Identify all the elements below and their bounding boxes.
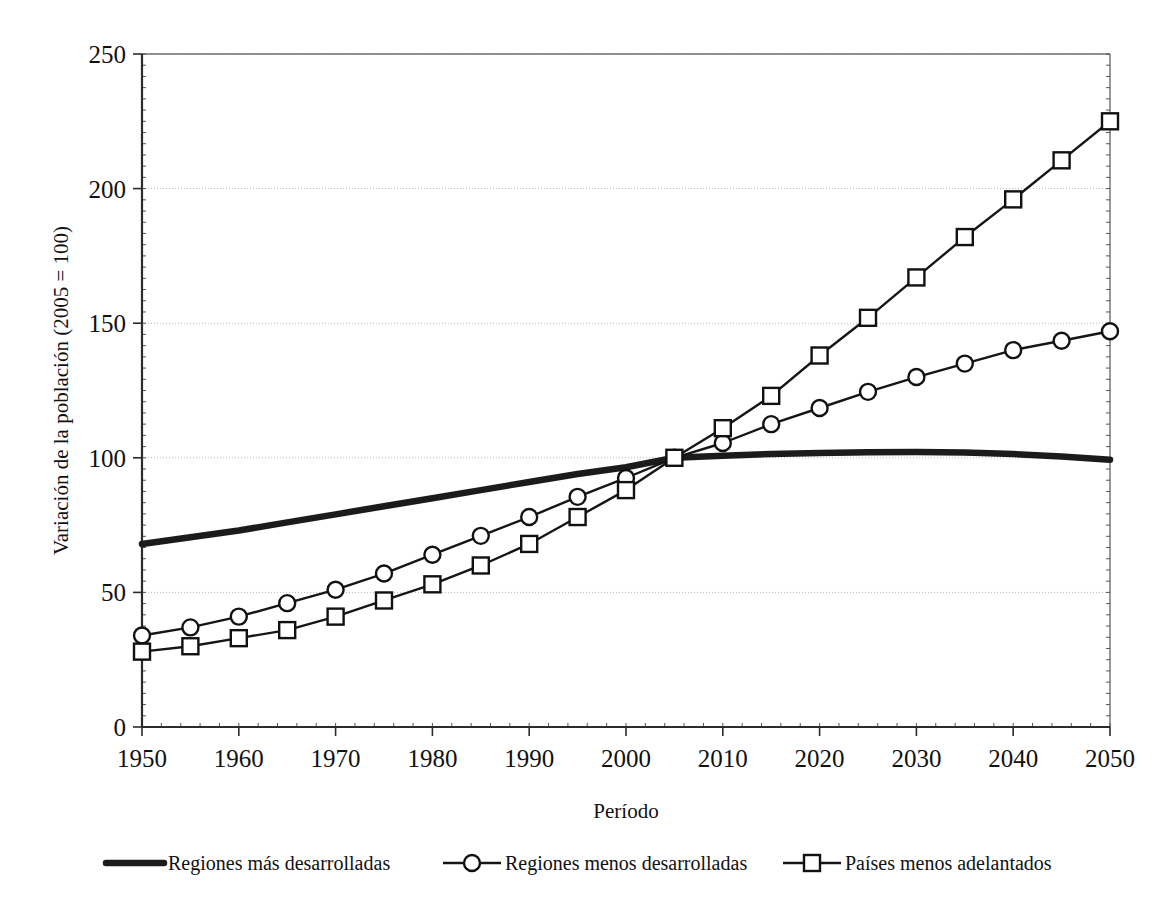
data-point-marker-square bbox=[908, 269, 924, 285]
data-point-marker-circle bbox=[957, 356, 973, 372]
data-point-marker-circle bbox=[279, 595, 295, 611]
data-point-marker-circle bbox=[715, 435, 731, 451]
x-tick-label-2020: 2020 bbox=[795, 745, 845, 772]
chart-canvas: 0501001502002501950196019701980199020002… bbox=[0, 0, 1170, 921]
legend-item-1[interactable]: Regiones menos desarrolladas bbox=[443, 852, 747, 875]
data-point-marker-square bbox=[666, 450, 682, 466]
x-tick-label-1980: 1980 bbox=[407, 745, 457, 772]
data-point-marker-square bbox=[715, 420, 731, 436]
legend-label-1: Regiones menos desarrolladas bbox=[505, 852, 747, 875]
data-point-marker-square bbox=[618, 482, 634, 498]
legend-marker-circle-icon bbox=[464, 855, 480, 871]
x-tick-label-1970: 1970 bbox=[311, 745, 361, 772]
legend-marker-square-icon bbox=[804, 855, 820, 871]
data-point-marker-square bbox=[328, 609, 344, 625]
series-line-2 bbox=[142, 121, 1110, 651]
data-point-marker-circle bbox=[182, 619, 198, 635]
data-point-marker-circle bbox=[231, 609, 247, 625]
data-point-marker-circle bbox=[328, 582, 344, 598]
data-point-marker-circle bbox=[1005, 342, 1021, 358]
legend-label-2: Países menos adelantados bbox=[845, 852, 1052, 874]
y-tick-label-150: 150 bbox=[89, 310, 127, 337]
data-point-marker-square bbox=[1054, 152, 1070, 168]
data-point-marker-square bbox=[134, 644, 150, 660]
y-tick-label-0: 0 bbox=[114, 714, 127, 741]
x-axis-title: Período bbox=[593, 799, 658, 823]
data-point-marker-circle bbox=[424, 547, 440, 563]
data-point-marker-square bbox=[957, 229, 973, 245]
data-point-marker-square bbox=[812, 348, 828, 364]
data-point-marker-circle bbox=[473, 528, 489, 544]
data-point-marker-circle bbox=[1102, 323, 1118, 339]
data-point-marker-circle bbox=[521, 509, 537, 525]
legend-item-2[interactable]: Países menos adelantados bbox=[783, 852, 1052, 874]
data-point-marker-circle bbox=[908, 369, 924, 385]
x-tick-label-1950: 1950 bbox=[117, 745, 167, 772]
data-point-marker-square bbox=[376, 592, 392, 608]
data-point-marker-square bbox=[182, 638, 198, 654]
population-variation-chart: 0501001502002501950196019701980199020002… bbox=[0, 0, 1170, 921]
y-tick-label-50: 50 bbox=[101, 579, 126, 606]
x-tick-label-1990: 1990 bbox=[504, 745, 554, 772]
data-point-marker-square bbox=[521, 536, 537, 552]
data-point-marker-circle bbox=[860, 384, 876, 400]
legend-label-0: Regiones más desarrolladas bbox=[168, 852, 390, 875]
x-tick-label-2000: 2000 bbox=[601, 745, 651, 772]
y-axis-title: Variación de la población (2005 = 100) bbox=[49, 226, 73, 555]
y-tick-label-250: 250 bbox=[89, 41, 127, 68]
data-point-marker-circle bbox=[376, 566, 392, 582]
y-tick-label-100: 100 bbox=[89, 445, 127, 472]
data-point-marker-circle bbox=[134, 627, 150, 643]
x-tick-label-2050: 2050 bbox=[1085, 745, 1135, 772]
data-point-marker-circle bbox=[570, 489, 586, 505]
data-point-marker-square bbox=[231, 630, 247, 646]
data-point-marker-square bbox=[1102, 113, 1118, 129]
y-tick-label-200: 200 bbox=[89, 176, 127, 203]
x-tick-label-2040: 2040 bbox=[988, 745, 1038, 772]
data-point-marker-circle bbox=[812, 400, 828, 416]
x-tick-label-2010: 2010 bbox=[698, 745, 748, 772]
data-point-marker-circle bbox=[1054, 333, 1070, 349]
data-point-marker-square bbox=[279, 622, 295, 638]
data-point-marker-square bbox=[473, 557, 489, 573]
data-point-marker-square bbox=[860, 310, 876, 326]
data-point-marker-circle bbox=[763, 416, 779, 432]
data-point-marker-square bbox=[424, 576, 440, 592]
x-tick-label-1960: 1960 bbox=[214, 745, 264, 772]
x-tick-label-2030: 2030 bbox=[891, 745, 941, 772]
data-point-marker-square bbox=[570, 509, 586, 525]
data-point-marker-square bbox=[763, 388, 779, 404]
data-point-marker-square bbox=[1005, 191, 1021, 207]
legend-item-0[interactable]: Regiones más desarrolladas bbox=[106, 852, 390, 875]
